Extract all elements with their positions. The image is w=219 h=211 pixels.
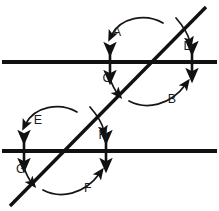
angle-label-d: D bbox=[183, 39, 192, 53]
geometry-diagram: A B C D E F G H bbox=[0, 0, 219, 211]
angle-label-g: G bbox=[16, 162, 26, 176]
angle-label-b: B bbox=[168, 92, 177, 106]
angle-label-f: F bbox=[84, 181, 92, 195]
pointer-curve-b bbox=[129, 84, 186, 105]
transversal-line bbox=[10, 7, 206, 206]
angle-label-h: H bbox=[98, 128, 107, 142]
angle-label-c: C bbox=[102, 71, 111, 85]
diagram-canvas: A B C D E F G H bbox=[0, 0, 219, 211]
angle-label-e: E bbox=[34, 113, 43, 127]
angle-label-a: A bbox=[113, 25, 122, 39]
